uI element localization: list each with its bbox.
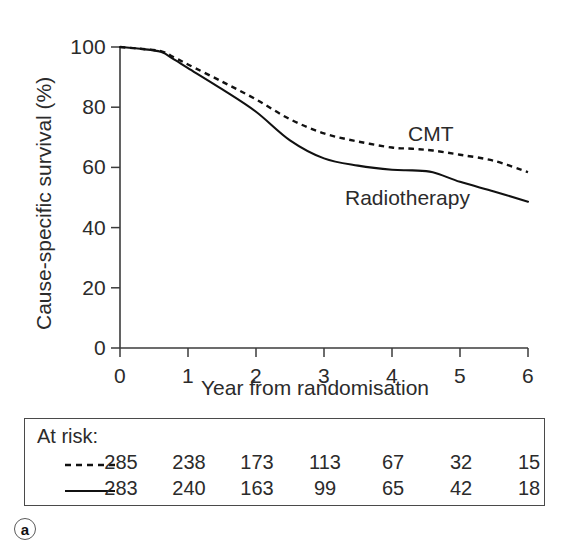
y-tick-label-100: 100 xyxy=(40,35,106,59)
figure-panel-a: 020406080100 0123456 Cause-specific surv… xyxy=(0,0,570,546)
at-risk-row-radiotherapy: 28324016399654218 xyxy=(25,477,546,505)
at-risk-row-cmt: 285238173113673215 xyxy=(25,451,546,479)
at-risk-table: At risk: 285238173113673215 283240163996… xyxy=(24,418,545,506)
at-risk-value: 163 xyxy=(240,477,273,500)
y-tick-label-0: 0 xyxy=(40,336,106,360)
at-risk-value: 285 xyxy=(104,451,137,474)
y-axis-title: Cause-specific survival (%) xyxy=(32,77,56,330)
series-line-cmt xyxy=(120,47,528,172)
at-risk-value: 283 xyxy=(104,477,137,500)
x-axis-ticks xyxy=(120,348,528,357)
at-risk-value: 113 xyxy=(309,451,341,474)
at-risk-title: At risk: xyxy=(37,425,98,448)
at-risk-value: 238 xyxy=(172,451,205,474)
at-risk-value: 32 xyxy=(450,451,472,474)
at-risk-value: 18 xyxy=(518,477,540,500)
at-risk-value: 15 xyxy=(518,451,540,474)
chart-plot-area: 020406080100 0123456 Cause-specific surv… xyxy=(0,0,570,410)
y-axis-ticks xyxy=(111,47,120,348)
at-risk-value: 99 xyxy=(314,477,336,500)
curve-label-cmt: CMT xyxy=(408,122,454,146)
curve-label-radiotherapy: Radiotherapy xyxy=(345,186,470,210)
at-risk-value: 65 xyxy=(382,477,404,500)
series-line-radiotherapy xyxy=(120,47,528,202)
at-risk-value: 67 xyxy=(382,451,404,474)
at-risk-value: 240 xyxy=(172,477,205,500)
at-risk-value: 173 xyxy=(240,451,273,474)
x-axis-title: Year from randomisation xyxy=(0,376,570,400)
panel-label: a xyxy=(14,518,36,540)
at-risk-value: 42 xyxy=(450,477,472,500)
